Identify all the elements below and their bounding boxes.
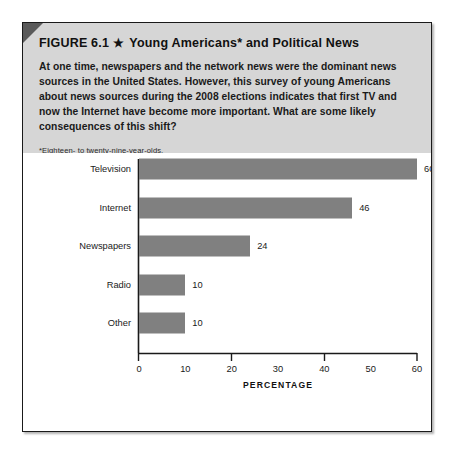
star-icon: ★ <box>113 36 124 50</box>
figure-description: At one time, newspapers and the network … <box>39 60 417 135</box>
bar-category-label: Other <box>108 318 131 328</box>
x-axis-title: PERCENTAGE <box>243 380 313 390</box>
bar-internet <box>139 197 352 218</box>
figure-header-band: FIGURE 6.1★Young Americans* and Politica… <box>23 23 431 153</box>
x-tick-label: 20 <box>226 364 236 374</box>
bar-newspapers <box>139 236 250 257</box>
chart-area: Television60Internet46Newspapers24Radio1… <box>23 153 431 430</box>
bar-other <box>139 313 185 334</box>
x-tick-label: 50 <box>365 364 375 374</box>
bar-category-label: Radio <box>107 280 131 290</box>
bar-value-label: 10 <box>192 280 202 290</box>
bar-value-label: 60 <box>424 164 432 174</box>
x-tick-label: 10 <box>180 364 190 374</box>
bar-value-label: 46 <box>359 203 369 213</box>
bar-category-label: Newspapers <box>79 241 131 251</box>
x-tick-label: 30 <box>273 364 283 374</box>
bar-category-label: Internet <box>99 203 131 213</box>
bar-category-label: Television <box>90 164 131 174</box>
x-tick-label: 40 <box>319 364 329 374</box>
corner-fold-decoration <box>23 23 43 43</box>
figure-number: FIGURE 6.1 <box>39 36 109 50</box>
x-tick-label: 60 <box>412 364 422 374</box>
figure-title: FIGURE 6.1★Young Americans* and Politica… <box>39 36 417 50</box>
figure-box: FIGURE 6.1★Young Americans* and Politica… <box>22 22 432 432</box>
chart-plot: Television60Internet46Newspapers24Radio1… <box>23 153 431 430</box>
bar-radio <box>139 274 185 295</box>
bar-value-label: 24 <box>257 241 267 251</box>
x-tick-label: 0 <box>136 364 141 374</box>
bar-value-label: 10 <box>192 318 202 328</box>
bar-television <box>139 159 417 180</box>
figure-title-text: Young Americans* and Political News <box>129 36 359 50</box>
